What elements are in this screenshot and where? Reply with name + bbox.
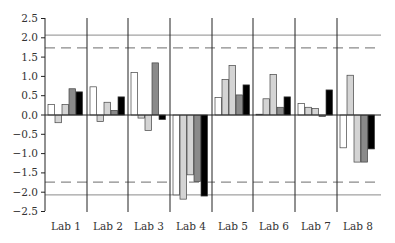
- bar: [215, 98, 222, 115]
- bar: [118, 97, 125, 115]
- bar: [48, 105, 55, 115]
- y-tick-label: 0.0: [21, 109, 38, 121]
- bar: [340, 115, 347, 148]
- bars: [48, 63, 375, 199]
- x-tick-label: Lab 1: [51, 220, 81, 232]
- bar: [243, 85, 250, 115]
- bar: [55, 115, 62, 123]
- y-tick-label: −1.0: [13, 147, 39, 159]
- x-tick-label: Lab 3: [134, 220, 164, 232]
- bar: [312, 108, 319, 115]
- bar: [361, 115, 368, 162]
- bar: [284, 97, 291, 115]
- bar: [104, 102, 111, 115]
- y-tick-label: 1.5: [21, 51, 38, 63]
- bar: [236, 95, 243, 115]
- x-tick-label: Lab 2: [93, 220, 123, 232]
- y-tick-label: 2.0: [21, 31, 38, 43]
- bar: [173, 115, 180, 195]
- bar: [368, 115, 375, 149]
- bar: [131, 73, 138, 115]
- bar: [187, 115, 194, 175]
- bar: [145, 115, 152, 130]
- bar: [347, 75, 354, 115]
- bar: [326, 90, 333, 115]
- bar: [263, 99, 270, 115]
- bar: [305, 107, 312, 115]
- bar: [180, 115, 187, 199]
- bar: [97, 115, 104, 122]
- y-tick-label: 2.5: [21, 12, 38, 24]
- bar: [354, 115, 361, 162]
- bar: [222, 79, 229, 115]
- bar: [90, 87, 97, 115]
- x-tick-label: Lab 5: [218, 220, 248, 232]
- bar: [159, 115, 166, 120]
- bar: [270, 74, 277, 115]
- y-tick-label: −0.5: [13, 128, 39, 140]
- bar: [229, 66, 236, 115]
- bar: [194, 115, 201, 181]
- x-tick-label: Lab 7: [301, 220, 331, 232]
- bar: [62, 105, 69, 115]
- bar: [277, 107, 284, 115]
- y-tick-label: 1.0: [21, 70, 38, 82]
- y-tick-label: −2.0: [13, 186, 39, 198]
- y-axis: 2.52.01.51.00.50.0−0.5−1.0−1.5−2.0−2.5: [13, 12, 46, 217]
- y-tick-label: −1.5: [13, 166, 39, 178]
- y-tick-label: −2.5: [13, 205, 39, 217]
- bar-chart: 2.52.01.51.00.50.0−0.5−1.0−1.5−2.0−2.5 L…: [0, 0, 395, 243]
- bar: [201, 115, 208, 196]
- bar: [111, 110, 118, 115]
- y-tick-label: 0.5: [21, 89, 38, 101]
- bar: [76, 92, 83, 115]
- x-tick-label: Lab 8: [343, 220, 373, 232]
- bar: [298, 103, 305, 115]
- x-tick-label: Lab 6: [259, 220, 289, 232]
- x-tick-label: Lab 4: [176, 220, 206, 232]
- bar: [69, 89, 76, 115]
- x-axis-labels: Lab 1Lab 2Lab 3Lab 4Lab 5Lab 6Lab 7Lab 8: [51, 220, 373, 232]
- bar: [152, 63, 159, 115]
